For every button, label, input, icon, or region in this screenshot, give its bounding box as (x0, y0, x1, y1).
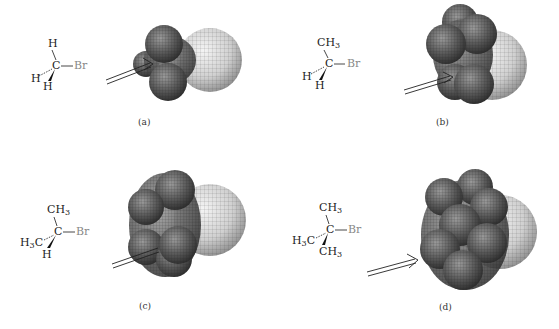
space-filling-model-a (0, 0, 280, 165)
caption-b: (b) (436, 117, 449, 127)
caption-a: (a) (138, 117, 150, 127)
panel-a: H C Br H H (a) (0, 0, 280, 165)
panel-c: CH3 C Br H3C H (c) (0, 165, 280, 329)
space-filling-model-b (280, 0, 559, 165)
space-filling-model-d (280, 165, 559, 329)
panel-b: CH3 C Br H H (b) (280, 0, 559, 165)
caption-d: (d) (439, 302, 452, 312)
caption-c: (c) (139, 301, 151, 311)
panel-d: CH3 C Br H3C CH3 (d) (280, 165, 559, 329)
